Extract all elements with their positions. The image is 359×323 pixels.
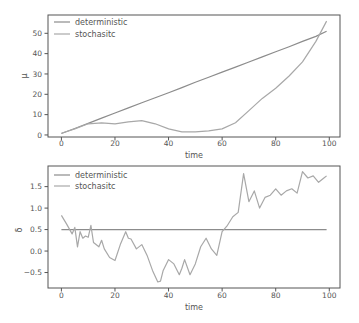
- y-tick-label: 0.5: [30, 225, 42, 234]
- delta-legend: deterministic stochasitc: [54, 171, 127, 191]
- mu-y-ticks: 01020304050: [32, 29, 48, 140]
- legend-label-stochastic: stochasitc: [75, 182, 116, 191]
- delta-x-ticks: 020406080100: [59, 288, 337, 300]
- x-tick-label: 80: [271, 139, 281, 148]
- y-tick-label: 40: [32, 49, 42, 58]
- y-tick-label: 1.0: [30, 204, 42, 213]
- delta-y-ticks: −0.50.00.51.01.5: [24, 182, 48, 277]
- delta-x-axis-label: time: [185, 303, 203, 312]
- x-tick-label: 60: [217, 291, 227, 300]
- x-tick-label: 100: [322, 139, 337, 148]
- x-tick-label: 100: [322, 291, 337, 300]
- y-tick-label: 50: [32, 29, 42, 38]
- delta-subplot: 020406080100 −0.50.00.51.01.5 time δ det…: [15, 166, 340, 312]
- x-tick-label: 60: [217, 139, 227, 148]
- y-tick-label: 30: [32, 70, 42, 79]
- y-tick-label: 10: [32, 110, 42, 119]
- mu-x-axis-label: time: [185, 151, 203, 160]
- figure: 020406080100 01020304050 time μ determin…: [0, 0, 359, 323]
- x-tick-label: 0: [59, 139, 64, 148]
- y-tick-label: 0.0: [30, 247, 42, 256]
- mu-x-ticks: 020406080100: [59, 137, 337, 148]
- series-line-deterministic: [61, 31, 326, 133]
- x-tick-label: 20: [110, 139, 120, 148]
- y-tick-label: 1.5: [30, 182, 42, 191]
- mu-legend: deterministic stochasitc: [54, 18, 127, 39]
- x-tick-label: 40: [164, 139, 174, 148]
- legend-label-deterministic: deterministic: [75, 171, 127, 180]
- y-tick-label: 0: [37, 131, 42, 140]
- x-tick-label: 20: [110, 291, 120, 300]
- x-tick-label: 40: [164, 291, 174, 300]
- y-tick-label: −0.5: [24, 268, 42, 277]
- mu-y-axis-label: μ: [20, 73, 29, 78]
- y-tick-label: 20: [32, 90, 42, 99]
- legend-label-deterministic: deterministic: [75, 18, 127, 27]
- legend-label-stochastic: stochasitc: [75, 30, 116, 39]
- x-tick-label: 0: [59, 291, 64, 300]
- x-tick-label: 80: [271, 291, 281, 300]
- mu-subplot: 020406080100 01020304050 time μ determin…: [20, 15, 340, 160]
- delta-y-axis-label: δ: [15, 227, 24, 232]
